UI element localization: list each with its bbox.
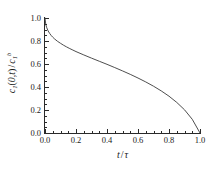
y-tick-label: 0.6: [30, 60, 41, 69]
figure: 1.0 0.8 0.6 0.4 0.2 0.0 0.0 0.2 0.4 0.6 …: [0, 0, 217, 171]
x-tick-label: 0.8: [164, 136, 175, 145]
x-tick-label: 0.2: [71, 136, 82, 145]
y-axis-title: c1(0,t)/c1b: [3, 53, 21, 93]
y-tick-label: 1.0: [30, 14, 41, 23]
y-axis-title-sym: c: [6, 89, 17, 93]
plot-area: [45, 18, 200, 133]
y-axis-title-sym2: c: [6, 59, 17, 63]
y-tick-mark: [45, 133, 49, 134]
y-axis-title-sup2: b: [5, 53, 12, 56]
x-tick-label: 0.4: [102, 136, 113, 145]
x-axis-title-denom: τ: [124, 149, 128, 160]
y-axis-title-sub2: 1: [11, 56, 18, 59]
x-axis-title: t/τ: [45, 149, 200, 160]
y-tick-label: 0.4: [30, 83, 41, 92]
y-axis-title-wrapper: c1(0,t)/c1b: [5, 16, 19, 131]
x-tick-label: 1.0: [195, 136, 206, 145]
x-tick-label: 0.0: [40, 136, 51, 145]
x-tick-label: 0.6: [133, 136, 144, 145]
y-axis-title-op: /: [6, 64, 17, 69]
data-curve: [45, 18, 200, 133]
y-axis-title-paren-open: (: [6, 82, 17, 85]
y-tick-label: 0.8: [30, 37, 41, 46]
y-axis-title-paren-close: ): [6, 69, 17, 72]
y-axis-title-args: 0,t: [6, 72, 17, 82]
y-axis-title-sub1: 1: [11, 86, 18, 89]
x-axis-line: [44, 133, 201, 134]
y-tick-label: 0.2: [30, 106, 41, 115]
